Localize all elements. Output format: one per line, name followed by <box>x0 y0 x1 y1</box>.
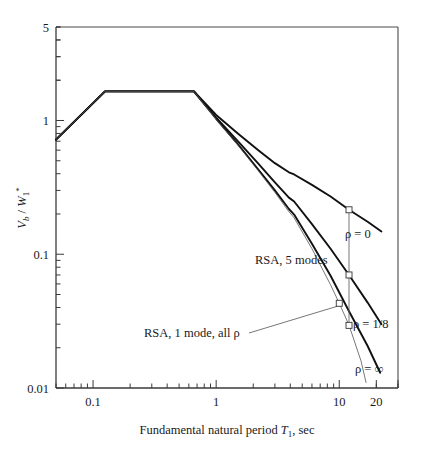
marker-rsa-5-modes <box>346 322 352 328</box>
curve-annotations: ρ = 0RSA, 5 modesρ = 1/8ρ = ∞RSA, 1 mode… <box>144 227 389 376</box>
x-axis-ticks <box>56 380 398 388</box>
y-axis-title: Vb / W1* <box>14 187 31 229</box>
curve-rho-0 <box>56 91 381 231</box>
rho-0-label: ρ = 0 <box>345 227 371 241</box>
annotation-leader-lines <box>249 213 349 333</box>
leader-line-rsa-1-mode <box>249 306 337 333</box>
marker-rho-1-8 <box>346 272 352 278</box>
x-tick-label-0: 0.1 <box>85 395 101 409</box>
x-tick-label-1: 1 <box>213 395 219 409</box>
x-tick-label-3: 20 <box>370 395 383 409</box>
rsa-1-mode-label: RSA, 1 mode, all ρ <box>144 326 240 340</box>
y-axis-tick-labels: 0.010.115 <box>27 21 49 396</box>
marker-rho-0 <box>346 207 352 213</box>
figure-container: 0.010.115 0.111020 ρ = 0RSA, 5 modesρ = … <box>0 0 421 449</box>
y-tick-label-0: 0.01 <box>27 382 49 396</box>
y-tick-label-1: 0.1 <box>33 248 49 262</box>
y-tick-label-3: 5 <box>43 21 49 35</box>
rho-inf-label: ρ = ∞ <box>355 362 384 376</box>
rsa-5-modes-label: RSA, 5 modes <box>255 253 328 267</box>
x-axis-title: Fundamental natural period T1, sec <box>140 423 315 439</box>
x-axis-tick-labels: 0.111020 <box>85 395 382 409</box>
chart-canvas: 0.010.115 0.111020 ρ = 0RSA, 5 modesρ = … <box>0 0 421 449</box>
y-tick-label-2: 1 <box>43 114 49 128</box>
y-axis-ticks <box>56 27 64 388</box>
rho-1-8-label: ρ = 1/8 <box>353 317 389 331</box>
marker-rsa-1-mode <box>336 300 342 306</box>
x-tick-label-2: 10 <box>333 395 346 409</box>
